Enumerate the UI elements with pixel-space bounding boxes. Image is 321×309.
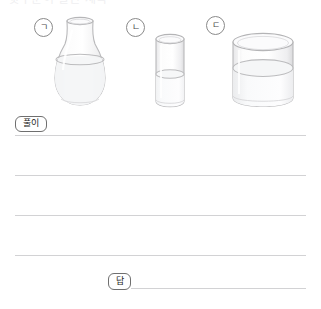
wide-cylinder-icon <box>226 14 302 110</box>
write-line-3[interactable] <box>15 215 306 216</box>
narrow-cylinder-icon <box>148 14 192 110</box>
write-line-4[interactable] <box>15 255 306 256</box>
write-line-2[interactable] <box>15 175 306 176</box>
vessel-label-3: ㄷ <box>206 16 225 35</box>
solution-tag: 풀이 <box>15 116 47 132</box>
answer-line[interactable] <box>131 288 306 289</box>
solution-area: 풀이 답 <box>0 112 321 309</box>
answer-tag: 답 <box>108 273 131 290</box>
vessel-label-1: ㄱ <box>34 18 53 37</box>
cropped-heading-text: 윗부분이 잘린 제목 <box>8 0 108 6</box>
vessel-figure-row: ㄱ <box>0 8 321 112</box>
flask-icon <box>52 14 108 110</box>
write-line-1[interactable] <box>15 135 306 136</box>
cropped-heading-strip: 윗부분이 잘린 제목 <box>0 0 321 7</box>
vessel-label-2: ㄴ <box>126 18 145 37</box>
